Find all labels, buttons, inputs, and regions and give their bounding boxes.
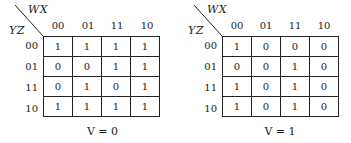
column-header: 10 xyxy=(309,20,339,31)
row-variable-label: YZ xyxy=(9,24,25,37)
row-header: 01 xyxy=(197,61,217,72)
cell: 1 xyxy=(44,37,73,57)
map-caption: V = 1 xyxy=(222,125,338,138)
table-row: 1 0 1 0 xyxy=(223,77,339,97)
row-header: 10 xyxy=(197,103,217,114)
cell: 1 xyxy=(281,57,310,77)
cell: 0 xyxy=(310,37,339,57)
cell: 1 xyxy=(73,77,102,97)
cell: 0 xyxy=(252,97,281,117)
row-header: 00 xyxy=(197,40,217,51)
cell: 1 xyxy=(131,97,160,117)
cell: 0 xyxy=(44,77,73,97)
kmap-grid: 1 1 1 1 0 0 1 1 0 1 0 1 1 1 1 1 xyxy=(43,36,160,117)
column-header: 11 xyxy=(280,20,310,31)
cell: 1 xyxy=(73,97,102,117)
cell: 1 xyxy=(102,37,131,57)
cell: 0 xyxy=(310,97,339,117)
row-header: 10 xyxy=(18,103,38,114)
cell: 0 xyxy=(252,57,281,77)
map-caption: V = 0 xyxy=(43,125,162,138)
cell: 1 xyxy=(223,77,252,97)
cell: 1 xyxy=(73,37,102,57)
row-header: 01 xyxy=(18,61,38,72)
table-row: 0 1 0 1 xyxy=(44,77,160,97)
cell: 1 xyxy=(281,97,310,117)
row-header: 00 xyxy=(18,40,38,51)
row-header: 11 xyxy=(197,82,217,93)
table-row: 1 1 1 1 xyxy=(44,37,160,57)
table-row: 1 1 1 1 xyxy=(44,97,160,117)
row-variable-label: YZ xyxy=(188,24,204,37)
table-row: 0 0 1 0 xyxy=(223,57,339,77)
cell: 1 xyxy=(131,37,160,57)
cell: 0 xyxy=(102,77,131,97)
column-header: 00 xyxy=(222,20,252,31)
column-header: 10 xyxy=(132,20,162,31)
table-row: 1 0 0 0 xyxy=(223,37,339,57)
cell: 0 xyxy=(44,57,73,77)
column-variable-label: WX xyxy=(207,3,227,16)
cell: 1 xyxy=(281,77,310,97)
cell: 1 xyxy=(131,57,160,77)
cell: 0 xyxy=(310,57,339,77)
cell: 1 xyxy=(102,57,131,77)
cell: 0 xyxy=(223,57,252,77)
cell: 0 xyxy=(73,57,102,77)
cell: 1 xyxy=(223,97,252,117)
column-variable-label: WX xyxy=(28,3,48,16)
kmap-grid: 1 0 0 0 0 0 1 0 1 0 1 0 1 0 1 0 xyxy=(222,36,339,117)
column-header: 01 xyxy=(73,20,103,31)
column-header: 01 xyxy=(251,20,281,31)
cell: 0 xyxy=(252,77,281,97)
kmap-v0: WX YZ 00 01 11 10 00 01 11 10 1 1 1 1 0 … xyxy=(0,0,175,143)
column-header: 11 xyxy=(102,20,132,31)
cell: 0 xyxy=(281,37,310,57)
table-row: 0 0 1 1 xyxy=(44,57,160,77)
column-header: 00 xyxy=(43,20,73,31)
cell: 1 xyxy=(102,97,131,117)
table-row: 1 0 1 0 xyxy=(223,97,339,117)
cell: 0 xyxy=(252,37,281,57)
cell: 1 xyxy=(131,77,160,97)
cell: 0 xyxy=(310,77,339,97)
cell: 1 xyxy=(223,37,252,57)
kmap-v1: WX YZ 00 01 11 10 00 01 11 10 1 0 0 0 0 … xyxy=(179,0,351,143)
row-header: 11 xyxy=(18,82,38,93)
cell: 1 xyxy=(44,97,73,117)
